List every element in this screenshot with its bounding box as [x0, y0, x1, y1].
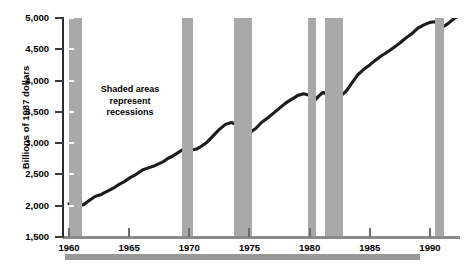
- y-tick-inner-mark: [65, 80, 74, 82]
- y-tick-mark: [55, 205, 64, 207]
- x-tick-label: 1985: [350, 242, 390, 253]
- y-tick-mark: [55, 142, 64, 144]
- x-tick-mark: [309, 228, 311, 237]
- y-tick-mark: [55, 236, 64, 238]
- shaded-areas-annotation: Shaded areas represent recessions: [78, 84, 182, 119]
- recession-band: [435, 18, 445, 237]
- recession-band: [325, 18, 343, 237]
- x-tick-label: 1970: [169, 242, 209, 253]
- y-tick-inner-mark: [65, 48, 74, 50]
- y-tick-inner-mark: [65, 205, 74, 207]
- y-tick-label: 5,000: [3, 13, 49, 23]
- x-tick-mark: [369, 228, 371, 237]
- chart-container: Billions of 1987 dollars 5,0004,5004,000…: [0, 0, 467, 275]
- recession-band: [308, 18, 315, 237]
- recession-band: [234, 18, 252, 237]
- plot-area: [63, 18, 460, 237]
- annotation-line-3: recessions: [78, 107, 182, 119]
- y-tick-label: 4,500: [3, 44, 49, 54]
- x-axis-line: [63, 236, 460, 239]
- y-tick-inner-mark: [65, 173, 74, 175]
- x-tick-label: 1960: [49, 242, 89, 253]
- x-tick-label: 1965: [109, 242, 149, 253]
- recession-band: [182, 18, 193, 237]
- x-tick-mark: [188, 228, 190, 237]
- annotation-line-1: Shaded areas: [78, 84, 182, 96]
- y-tick-label: 4,000: [3, 76, 49, 86]
- y-tick-inner-mark: [65, 17, 74, 19]
- y-tick-label: 3,000: [3, 138, 49, 148]
- x-tick-mark: [429, 228, 431, 237]
- y-tick-label: 3,500: [3, 107, 49, 117]
- y-tick-mark: [55, 17, 64, 19]
- y-tick-label: 2,000: [3, 201, 49, 211]
- x-tick-mark: [128, 228, 130, 237]
- footer-rule: [65, 254, 420, 260]
- x-tick-label: 1975: [229, 242, 269, 253]
- y-tick-inner-mark: [65, 142, 74, 144]
- x-tick-mark: [68, 228, 70, 237]
- y-tick-mark: [55, 111, 64, 113]
- y-tick-label: 2,500: [3, 169, 49, 179]
- y-tick-inner-mark: [65, 111, 74, 113]
- x-tick-mark: [248, 228, 250, 237]
- y-tick-label: 1,500: [3, 232, 49, 242]
- x-tick-label: 1980: [290, 242, 330, 253]
- annotation-line-2: represent: [78, 96, 182, 108]
- y-tick-mark: [55, 48, 64, 50]
- gdp-line-chart: [63, 18, 460, 237]
- x-tick-label: 1990: [410, 242, 450, 253]
- y-tick-mark: [55, 173, 64, 175]
- plot-clip: [63, 18, 460, 237]
- y-tick-mark: [55, 80, 64, 82]
